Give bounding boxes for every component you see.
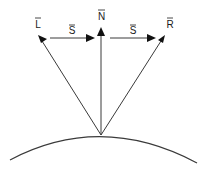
label-l-group: L (35, 18, 41, 30)
vector-n (97, 27, 105, 135)
vector-s-right-arrowhead-icon (147, 34, 156, 42)
reflection-diagram: L N R S S (0, 0, 204, 170)
label-l: L (35, 19, 41, 30)
label-r: R (166, 19, 173, 30)
vector-l (38, 35, 101, 135)
label-s-right-group: S (130, 25, 137, 36)
label-r-group: R (166, 18, 173, 30)
vector-r-arrowhead-icon (158, 35, 165, 43)
vector-s-left-arrowhead-icon (86, 34, 95, 42)
vector-l-line (42, 41, 101, 135)
vector-l-arrowhead-icon (38, 35, 47, 43)
label-s-left: S (69, 25, 76, 36)
label-s-right: S (130, 25, 137, 36)
label-s-left-group: S (69, 25, 76, 36)
label-n-group: N (98, 10, 105, 22)
vector-n-arrowhead-icon (97, 27, 105, 36)
vector-r-line (101, 41, 161, 135)
vector-r (101, 35, 165, 135)
label-n: N (98, 11, 105, 22)
surface-curve (10, 137, 197, 163)
